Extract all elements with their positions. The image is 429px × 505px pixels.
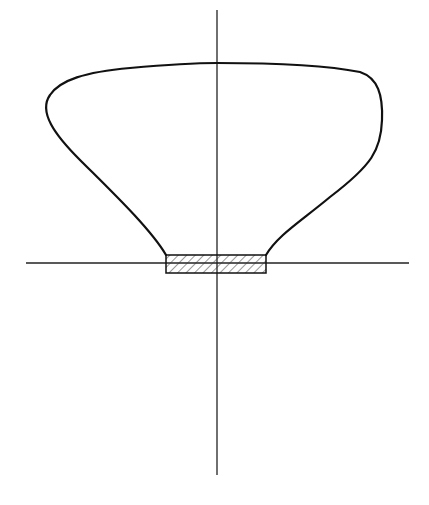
vessel-profile-outline xyxy=(46,63,382,255)
diagram-canvas xyxy=(0,0,429,505)
hatched-base-section xyxy=(166,255,266,273)
vessel-diagram xyxy=(0,0,429,505)
